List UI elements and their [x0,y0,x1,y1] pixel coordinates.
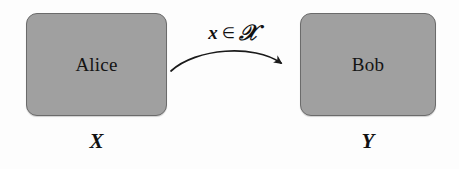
message-set: 𝒳 [239,20,258,45]
message-annotation: x∈𝒳 [178,21,288,43]
message-variable: x [208,22,218,43]
receiver-set-label: Y [300,131,436,152]
sender-box-alice[interactable]: Alice [26,13,167,116]
sender-set-label: X [26,131,167,152]
message-arrow-icon [168,44,293,80]
sender-box-label: Alice [75,55,117,74]
diagram-canvas: Alice Bob X Y x∈𝒳 [0,0,459,169]
receiver-box-bob[interactable]: Bob [300,13,436,116]
receiver-box-label: Bob [352,55,384,74]
element-of-icon: ∈ [218,24,239,42]
